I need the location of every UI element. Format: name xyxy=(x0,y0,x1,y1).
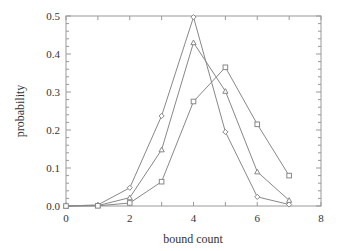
y-tick-label: 0.4 xyxy=(46,48,60,60)
y-tick-label: 0.1 xyxy=(46,162,60,174)
line-chart: 024680.00.10.20.30.40.5 bound count prob… xyxy=(0,0,340,251)
diamond-marker-icon xyxy=(159,113,164,118)
series-line xyxy=(66,17,289,206)
triangle-marker-icon xyxy=(159,147,164,152)
y-tick-label: 0.3 xyxy=(46,86,60,98)
square-marker-icon xyxy=(191,99,196,104)
data-series xyxy=(63,15,291,209)
diamond-marker-icon xyxy=(127,185,132,190)
square-marker-icon xyxy=(223,65,228,70)
triangle-marker-icon xyxy=(223,89,228,94)
square-marker-icon xyxy=(64,204,69,209)
square-marker-icon xyxy=(287,173,292,178)
y-axis-label: probability xyxy=(13,85,27,138)
y-tick-label: 0.2 xyxy=(46,124,60,136)
diamond-marker-icon xyxy=(255,194,260,199)
x-tick-label: 8 xyxy=(318,212,324,224)
diamond-marker-icon xyxy=(191,15,196,20)
y-tick-label: 0.0 xyxy=(46,200,60,212)
triangle-marker-icon xyxy=(255,169,260,174)
series-diamond xyxy=(63,15,291,209)
series-line xyxy=(66,67,289,206)
x-tick-label: 4 xyxy=(191,212,197,224)
square-marker-icon xyxy=(159,179,164,184)
square-marker-icon xyxy=(96,204,101,209)
y-tick-label: 0.5 xyxy=(46,10,60,22)
x-tick-label: 0 xyxy=(63,212,69,224)
triangle-marker-icon xyxy=(191,40,196,45)
diamond-marker-icon xyxy=(223,129,228,134)
x-tick-label: 2 xyxy=(127,212,133,224)
x-axis-label: bound count xyxy=(163,232,223,246)
square-marker-icon xyxy=(255,122,260,127)
x-tick-label: 6 xyxy=(255,212,261,224)
square-marker-icon xyxy=(127,201,132,206)
series-square xyxy=(64,65,292,208)
